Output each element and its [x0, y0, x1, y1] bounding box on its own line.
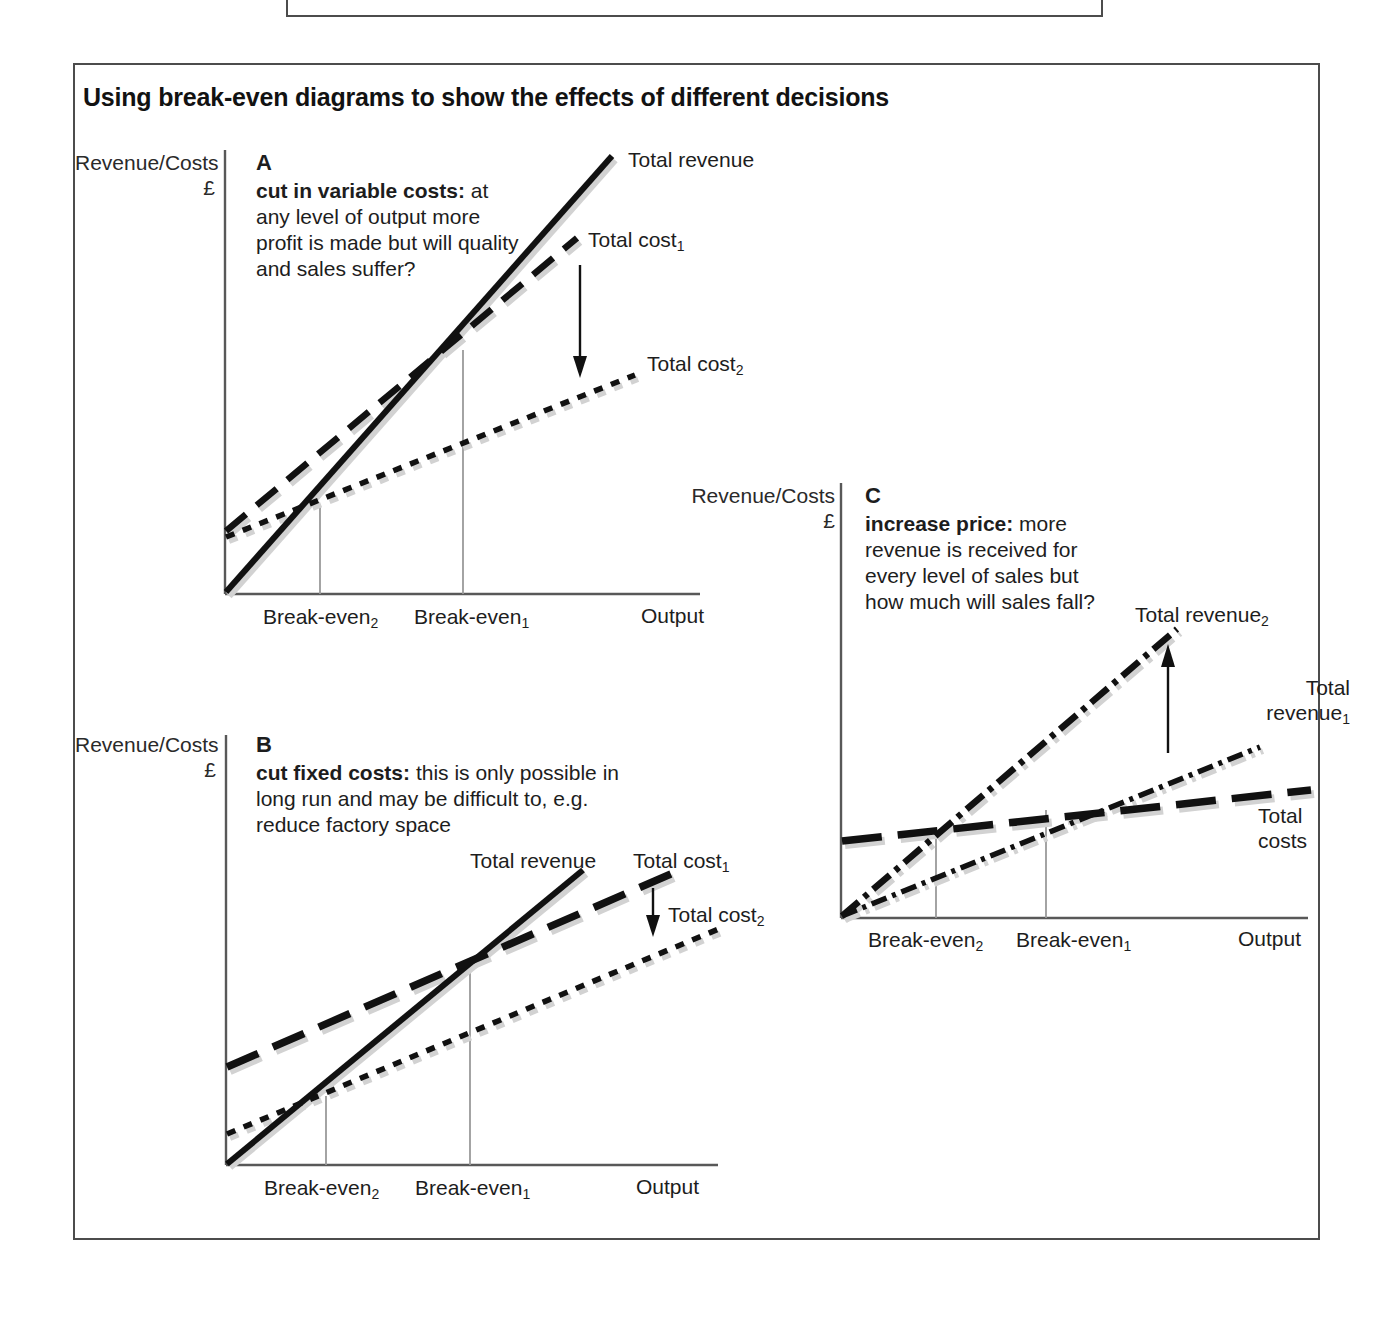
diagram-b-breakeven-2-label: Break-even2: [264, 1176, 379, 1200]
diagram-c-total-revenue-2-label-sub: 2: [1261, 613, 1269, 629]
diagram-b-total-cost-2-label-sub: 2: [757, 913, 765, 929]
diagram-c-total-revenue-1-label-line1: Total: [1306, 676, 1350, 699]
diagram-a-total-cost-2-line: [226, 375, 635, 537]
diagram-a-total-cost-2-label-text: Total cost: [647, 352, 736, 375]
diagram-c-breakeven-1-label: Break-even1: [1016, 928, 1131, 952]
diagram-b-total-cost-1-line: [227, 870, 680, 1067]
diagram-b-total-cost-1-label-text: Total cost: [633, 849, 722, 872]
diagram-a-total-cost-2-label: Total cost2: [647, 351, 744, 379]
diagram-a-total-cost-1-label-text: Total cost: [588, 228, 677, 251]
diagram-b-breakeven-2-label-text: Break-even: [264, 1176, 371, 1199]
diagram-b-x-axis-label: Output: [636, 1175, 699, 1199]
diagram-c-breakeven-1-label-sub: 1: [1123, 938, 1131, 954]
diagram-a-total-cost-2-label-sub: 2: [736, 362, 744, 378]
diagram-b-total-revenue-label-text: Total revenue: [470, 849, 596, 872]
diagram-c-total-costs-label: Total costs: [1258, 803, 1307, 853]
diagram-c-total-revenue-2-shadow: [845, 633, 1180, 920]
diagram-b-breakeven-2-label-sub: 2: [371, 1186, 379, 1202]
diagram-a-total-cost-1-line: [226, 238, 577, 531]
diagram-a-total-revenue-label-text: Total revenue: [628, 148, 754, 171]
diagram-b-shift-arrow-head: [646, 915, 660, 937]
diagram-c-total-revenue-1-label: Total revenue1: [1240, 675, 1350, 728]
diagram-c-breakeven-1-label-text: Break-even: [1016, 928, 1123, 951]
diagram-a-total-revenue-label: Total revenue: [628, 147, 754, 172]
diagram-c-total-revenue-2-label: Total revenue2: [1135, 602, 1269, 630]
diagram-c-total-revenue-2-label-text: Total revenue: [1135, 603, 1261, 626]
diagram-a-breakeven-2-label: Break-even2: [263, 605, 378, 629]
diagram-a: Revenue/Costs £ A cut in variable costs:…: [0, 0, 760, 640]
diagram-b-total-cost-2-label: Total cost2: [668, 902, 765, 930]
diagram-c-total-revenue-1-label-line2: revenue: [1266, 701, 1342, 724]
diagram-b-breakeven-1-label-text: Break-even: [415, 1176, 522, 1199]
diagram-c-total-costs-line: [842, 790, 1311, 841]
diagram-b-total-revenue-shadow: [230, 874, 586, 1167]
diagram-a-breakeven-1-label: Break-even1: [414, 605, 529, 629]
diagram-b-total-cost-1-label: Total cost1: [633, 848, 730, 876]
diagram-a-total-cost-1-label: Total cost1: [588, 227, 685, 255]
diagram-a-breakeven-1-label-text: Break-even: [414, 605, 521, 628]
diagram-b-breakeven-1-label-sub: 1: [522, 1186, 530, 1202]
diagram-c-breakeven-2-label-text: Break-even: [868, 928, 975, 951]
diagram-a-plot: [0, 0, 760, 640]
diagram-c-breakeven-2-label: Break-even2: [868, 928, 983, 952]
diagram-c-total-costs-label-line2: costs: [1258, 829, 1307, 852]
diagram-c-total-revenue-2-line: [842, 629, 1177, 916]
page-root: Using break-even diagrams to show the ef…: [0, 0, 1391, 1317]
diagram-a-breakeven-2-label-sub: 2: [370, 615, 378, 631]
diagram-c-breakeven-2-label-sub: 2: [975, 938, 983, 954]
diagram-c-total-revenue-1-label-sub: 1: [1342, 711, 1350, 727]
diagram-b-plot: [0, 700, 800, 1240]
diagram-b-total-cost-2-label-text: Total cost: [668, 903, 757, 926]
diagram-b-total-revenue-label: Total revenue: [470, 848, 596, 873]
diagram-a-breakeven-2-label-text: Break-even: [263, 605, 370, 628]
diagram-b-total-revenue-line: [227, 870, 583, 1164]
diagram-b-total-cost-1-label-sub: 1: [722, 859, 730, 875]
diagram-c-total-costs-label-line1: Total: [1258, 804, 1302, 827]
diagram-a-total-cost-1-label-sub: 1: [677, 238, 685, 254]
diagram-b-breakeven-1-label: Break-even1: [415, 1176, 530, 1200]
diagram-b: Revenue/Costs £ B cut fixed costs: this …: [0, 700, 800, 1240]
diagram-a-shift-arrow-head: [573, 356, 587, 378]
diagram-a-breakeven-1-label-sub: 1: [521, 615, 529, 631]
diagram-c-x-axis-label: Output: [1238, 927, 1301, 951]
